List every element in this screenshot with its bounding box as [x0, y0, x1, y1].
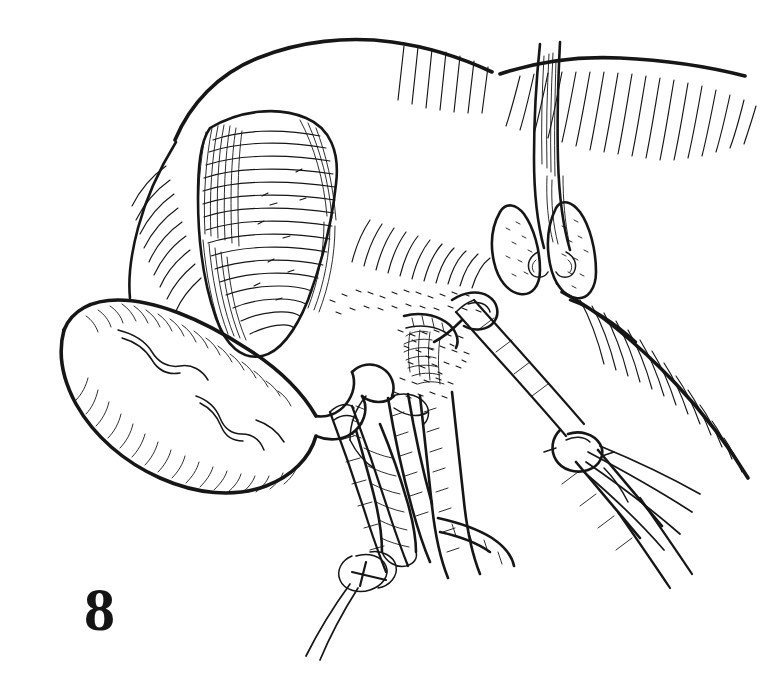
figure-number: 8: [84, 578, 115, 640]
surgical-illustration: Black-and-white pen-and-ink surgical dra…: [0, 0, 772, 681]
figure-plate: Black-and-white pen-and-ink surgical dra…: [0, 0, 772, 681]
